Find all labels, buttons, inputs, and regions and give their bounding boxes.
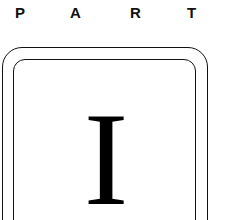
part-numeral: I bbox=[0, 92, 212, 220]
part-letter-p: P bbox=[15, 4, 25, 21]
part-letter-t: T bbox=[187, 4, 196, 21]
part-label: P A R T bbox=[0, 4, 225, 24]
part-letter-a: A bbox=[70, 4, 81, 21]
part-letter-r: R bbox=[130, 4, 141, 21]
